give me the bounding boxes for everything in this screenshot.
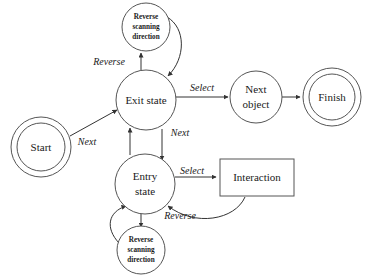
state-diagram: Start Exit state Entry state Reverse sca…	[0, 0, 370, 275]
interaction-label: Interaction	[233, 171, 281, 183]
finish-label: Finish	[318, 91, 346, 103]
edge-label-select-interaction: Select	[180, 165, 204, 176]
node-interaction[interactable]: Interaction	[220, 159, 294, 196]
reverse-bottom-label-line3: direction	[127, 256, 154, 264]
node-start[interactable]: Start	[11, 117, 71, 177]
entry-state-label-line1: Entry	[133, 170, 158, 182]
reverse-top-label-line1: Reverse	[134, 13, 158, 21]
edge-label-next-exit-to-entry: Next	[170, 127, 190, 138]
entry-state-label-line2: state	[135, 185, 155, 197]
node-exit-state[interactable]: Exit state	[116, 70, 176, 130]
diagram-canvas: Start Exit state Entry state Reverse sca…	[0, 0, 370, 275]
exit-state-label: Exit state	[125, 94, 166, 106]
reverse-bottom-label-line1: Reverse	[129, 236, 153, 244]
reverse-top-label-line3: direction	[132, 33, 159, 41]
next-object-label-line2: object	[243, 98, 270, 110]
node-reverse-scanning-direction-bottom[interactable]: Reverse scanning direction	[117, 226, 165, 274]
node-entry-state[interactable]: Entry state	[115, 154, 175, 214]
edge-start-to-exit-state	[70, 110, 117, 136]
reverse-bottom-label-line2: scanning	[127, 246, 155, 254]
edge-label-reverse-bottom: Reverse	[163, 210, 196, 221]
node-next-object[interactable]: Next object	[230, 71, 282, 123]
node-finish[interactable]: Finish	[303, 68, 361, 126]
edge-label-next-start-to-exit: Next	[77, 136, 97, 147]
next-object-label-line1: Next	[245, 83, 266, 95]
node-reverse-scanning-direction-top[interactable]: Reverse scanning direction	[122, 3, 170, 51]
reverse-top-label-line2: scanning	[132, 23, 160, 31]
edge-label-select-next-object: Select	[190, 82, 214, 93]
start-label: Start	[31, 141, 52, 153]
edge-label-reverse-top: Reverse	[92, 56, 125, 67]
